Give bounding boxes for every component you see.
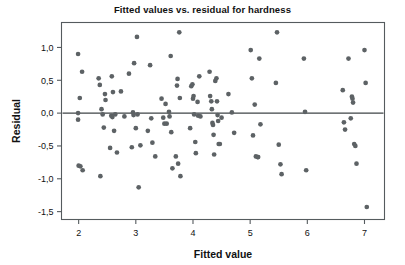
data-point xyxy=(208,94,213,99)
data-point xyxy=(256,155,261,160)
x-axis-title: Fitted value xyxy=(194,248,253,260)
data-point xyxy=(76,52,81,57)
data-point xyxy=(207,69,212,74)
data-point xyxy=(248,48,253,53)
data-point xyxy=(363,81,368,86)
data-point xyxy=(145,129,150,134)
data-point xyxy=(163,102,168,107)
data-point xyxy=(103,98,108,103)
scatter-plot-figure: Fitted values vs. residual for hardness … xyxy=(0,0,405,265)
data-point xyxy=(149,116,154,121)
data-point xyxy=(103,92,108,97)
data-point xyxy=(211,132,216,137)
data-point xyxy=(278,162,283,167)
data-point xyxy=(108,146,113,151)
data-point xyxy=(109,74,114,79)
x-tick-label: 3 xyxy=(133,228,138,238)
data-point xyxy=(350,96,355,101)
data-point xyxy=(210,107,215,112)
y-tick-label: 1,0 xyxy=(41,43,54,53)
data-point xyxy=(112,129,117,134)
data-point xyxy=(122,114,127,119)
x-tick-label: 7 xyxy=(362,228,367,238)
data-point xyxy=(119,89,124,94)
data-point xyxy=(251,133,256,138)
data-points-layer xyxy=(76,30,369,209)
data-point xyxy=(193,151,198,156)
data-point xyxy=(99,107,104,112)
data-point xyxy=(170,166,175,171)
x-tick-label: 2 xyxy=(76,228,81,238)
data-point xyxy=(129,145,134,150)
y-tick-label: 0,5 xyxy=(41,76,54,86)
data-point xyxy=(354,161,359,166)
data-point xyxy=(176,161,181,166)
data-point xyxy=(252,102,257,107)
data-point xyxy=(257,56,262,61)
data-point xyxy=(135,35,140,40)
data-point xyxy=(342,120,347,125)
y-axis-tick-labels: 1,00,50,0-0,5-1,0-1,5 xyxy=(38,43,54,217)
data-point xyxy=(148,63,153,68)
data-point xyxy=(353,144,358,149)
data-point xyxy=(226,92,231,97)
data-point xyxy=(195,100,200,105)
data-point xyxy=(303,109,308,114)
y-axis-title: Residual xyxy=(10,99,22,143)
data-point xyxy=(131,113,136,118)
data-point xyxy=(100,112,105,117)
data-point xyxy=(362,48,367,53)
data-point xyxy=(161,115,166,120)
data-point xyxy=(168,54,173,59)
data-point xyxy=(219,115,224,120)
data-point xyxy=(175,83,180,88)
data-point xyxy=(177,30,182,35)
data-point xyxy=(211,123,216,128)
data-point xyxy=(348,116,353,121)
data-point xyxy=(215,113,220,118)
data-point xyxy=(212,152,217,157)
x-axis-ticks xyxy=(79,220,365,225)
data-point xyxy=(209,99,214,104)
data-point xyxy=(135,112,140,117)
plot-canvas: 234567 1,00,50,0-0,5-1,0-1,5 Fitted valu… xyxy=(0,0,405,265)
data-point xyxy=(78,164,83,169)
data-point xyxy=(276,142,281,147)
data-point xyxy=(178,174,183,179)
data-point xyxy=(169,130,174,135)
data-point xyxy=(214,76,219,81)
data-point xyxy=(258,122,263,127)
data-point xyxy=(193,140,198,145)
data-point xyxy=(101,125,106,130)
y-tick-label: -0,5 xyxy=(38,141,54,151)
data-point xyxy=(218,142,223,147)
x-tick-label: 5 xyxy=(248,228,253,238)
data-point xyxy=(198,114,203,119)
data-point xyxy=(304,168,309,173)
data-point xyxy=(215,99,220,104)
data-point xyxy=(138,143,143,148)
data-point xyxy=(190,82,195,87)
data-point xyxy=(167,114,172,119)
data-point xyxy=(113,112,118,117)
data-point xyxy=(197,74,202,79)
data-point xyxy=(150,140,155,145)
data-point xyxy=(132,61,137,66)
x-tick-label: 6 xyxy=(305,228,310,238)
data-point xyxy=(127,71,132,76)
y-axis-ticks xyxy=(57,47,62,211)
data-point xyxy=(80,168,85,173)
data-point xyxy=(167,109,172,114)
data-point xyxy=(364,205,369,210)
data-point xyxy=(115,150,120,155)
data-point xyxy=(164,121,169,126)
plot-frame xyxy=(62,23,385,220)
data-point xyxy=(346,56,351,61)
data-point xyxy=(98,174,103,179)
data-point xyxy=(302,56,307,61)
data-point xyxy=(136,185,141,190)
y-tick-label: -1,5 xyxy=(38,207,54,217)
data-point xyxy=(177,96,182,101)
data-point xyxy=(274,81,279,86)
data-point xyxy=(343,127,348,132)
